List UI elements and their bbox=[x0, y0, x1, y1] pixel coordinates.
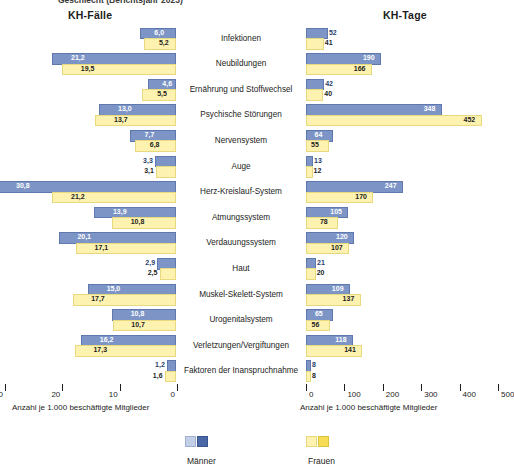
bar-value-label: 120 bbox=[336, 232, 348, 242]
chart-row: 13,013,7Psychische Störungen348452 bbox=[0, 103, 502, 129]
bar-frauen[interactable] bbox=[306, 38, 324, 50]
bar-value-label: 170 bbox=[355, 192, 367, 202]
chart-row: 15,017,7Muskel-Skelett-System109137 bbox=[0, 283, 502, 309]
legend-label-maenner: Männer bbox=[187, 456, 216, 466]
legend-swatch-women-light bbox=[306, 436, 317, 447]
bar-frauen[interactable] bbox=[160, 268, 176, 280]
bar-group-kh-tage: 247170 bbox=[306, 180, 502, 206]
chart-row: 3,33,1Auge1312 bbox=[0, 155, 502, 181]
bar-value-label: 15,0 bbox=[107, 284, 121, 294]
category-label: Nervensystem bbox=[176, 136, 306, 145]
bar-value-label: 1,2 bbox=[155, 360, 165, 370]
bar-value-label: 7,7 bbox=[145, 130, 155, 140]
category-label: Haut bbox=[176, 264, 306, 273]
bar-value-label: 348 bbox=[424, 104, 436, 114]
category-label: Urogenitalsystem bbox=[176, 315, 306, 324]
bar-frauen[interactable] bbox=[73, 294, 176, 306]
bar-value-label: 42 bbox=[325, 79, 333, 89]
bar-group-kh-tage: 190166 bbox=[306, 52, 502, 78]
bar-value-label: 6,8 bbox=[150, 140, 160, 150]
axis-tick-label: 400 bbox=[463, 390, 476, 399]
bar-frauen[interactable] bbox=[95, 115, 176, 127]
bar-value-label: 1,6 bbox=[153, 371, 163, 381]
axis-tick-label: 10 bbox=[109, 390, 118, 399]
x-axis-right: 0100200300400500 bbox=[300, 384, 502, 402]
bar-value-label: 8 bbox=[312, 360, 316, 370]
bar-frauen[interactable] bbox=[165, 371, 176, 383]
bar-value-label: 10,8 bbox=[131, 217, 145, 227]
bar-group-kh-tage: 5241 bbox=[306, 27, 502, 53]
bar-group-kh-tage: 1312 bbox=[306, 155, 502, 181]
panel-header-kh-faelle: KH-Fälle bbox=[68, 9, 112, 21]
bar-value-label: 55 bbox=[311, 140, 319, 150]
bar-group-kh-faelle: 10,810,7 bbox=[0, 308, 176, 334]
bar-value-label: 4,6 bbox=[162, 79, 172, 89]
bar-group-kh-faelle: 15,017,7 bbox=[0, 283, 176, 309]
bar-value-label: 452 bbox=[464, 115, 476, 125]
bar-value-label: 20 bbox=[317, 268, 325, 278]
axis-tick-label: 200 bbox=[386, 390, 399, 399]
bar-group-kh-tage: 4240 bbox=[306, 78, 502, 104]
category-label: Neubildungen bbox=[176, 59, 306, 68]
bar-group-kh-faelle: 4,65,5 bbox=[0, 78, 176, 104]
legend-item-maenner: Männer bbox=[185, 432, 216, 444]
bar-value-label: 247 bbox=[385, 181, 397, 191]
bar-frauen[interactable] bbox=[75, 345, 176, 357]
bar-value-label: 16,2 bbox=[100, 335, 114, 345]
bar-value-label: 166 bbox=[354, 64, 366, 74]
bar-frauen[interactable] bbox=[306, 166, 313, 178]
category-label: Verdauungssystem bbox=[176, 238, 306, 247]
chart-row: 13,910,8Atmungssystem10578 bbox=[0, 206, 502, 232]
bar-frauen[interactable] bbox=[306, 371, 311, 383]
bar-frauen[interactable] bbox=[156, 166, 176, 178]
bar-group-kh-tage: 120107 bbox=[306, 231, 502, 257]
bar-value-label: 8 bbox=[312, 371, 316, 381]
chart-row: 10,810,7Urogenitalsystem6556 bbox=[0, 308, 502, 334]
chart-row: 1,21,6Faktoren der Inanspruchnahme88 bbox=[0, 359, 502, 385]
bar-value-label: 5,5 bbox=[157, 89, 167, 99]
bar-frauen[interactable] bbox=[306, 268, 316, 280]
bar-value-label: 19,5 bbox=[81, 64, 95, 74]
bar-value-label: 2,5 bbox=[148, 268, 158, 278]
bar-value-label: 137 bbox=[343, 294, 355, 304]
bar-value-label: 118 bbox=[335, 335, 346, 345]
category-label: Psychische Störungen bbox=[176, 110, 306, 119]
bar-value-label: 21 bbox=[317, 258, 325, 268]
category-label: Herz-Kreislauf-System bbox=[176, 187, 306, 196]
bar-value-label: 141 bbox=[344, 345, 356, 355]
bar-value-label: 17,3 bbox=[93, 345, 107, 355]
chart-row: 7,76,8Nervensystem6455 bbox=[0, 129, 502, 155]
bar-value-label: 17,1 bbox=[95, 243, 109, 253]
legend-swatch-men-dark bbox=[197, 436, 208, 447]
category-label: Faktoren der Inanspruchnahme bbox=[176, 366, 306, 375]
bar-group-kh-faelle: 13,910,8 bbox=[0, 206, 176, 232]
bar-value-label: 10,8 bbox=[131, 309, 145, 319]
bar-group-kh-faelle: 20,117,1 bbox=[0, 231, 176, 257]
chart-row: 4,65,5Ernährung und Stoffwechsel4240 bbox=[0, 78, 502, 104]
bar-value-label: 21,2 bbox=[71, 192, 85, 202]
chart-row: 30,821,2Herz-Kreislauf-System247170 bbox=[0, 180, 502, 206]
axis-tick-label: 300 bbox=[424, 390, 437, 399]
bar-value-label: 30,8 bbox=[16, 181, 30, 191]
bar-value-label: 40 bbox=[324, 89, 332, 99]
chart-row: 2,92,5Haut2120 bbox=[0, 257, 502, 283]
bar-frauen[interactable] bbox=[76, 243, 176, 255]
bar-value-label: 10,7 bbox=[131, 320, 145, 330]
axis-tick-label: 0 bbox=[171, 390, 175, 399]
bar-group-kh-faelle: 7,76,8 bbox=[0, 129, 176, 155]
bar-value-label: 109 bbox=[332, 284, 344, 294]
bar-frauen[interactable] bbox=[306, 115, 482, 127]
category-label: Auge bbox=[176, 162, 306, 171]
bar-frauen[interactable] bbox=[306, 89, 323, 101]
bar-value-label: 107 bbox=[331, 243, 343, 253]
bar-value-label: 17,7 bbox=[91, 294, 105, 304]
bar-frauen[interactable] bbox=[62, 64, 176, 76]
bar-group-kh-faelle: 3,33,1 bbox=[0, 155, 176, 181]
bar-value-label: 41 bbox=[325, 38, 333, 48]
legend-swatch-men-light bbox=[185, 436, 196, 447]
bar-value-label: 3,1 bbox=[144, 166, 154, 176]
axis-tick-label: 0 bbox=[309, 390, 313, 399]
bar-group-kh-faelle: 21,219,5 bbox=[0, 52, 176, 78]
bar-group-kh-faelle: 1,21,6 bbox=[0, 359, 176, 385]
bar-group-kh-tage: 10578 bbox=[306, 206, 502, 232]
